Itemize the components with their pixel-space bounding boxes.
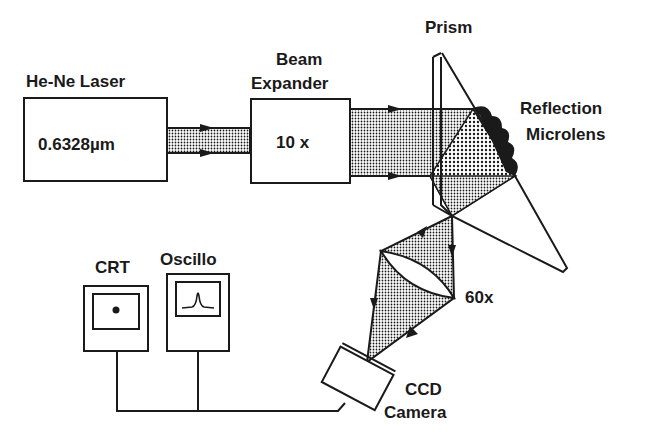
prism-label: Prism <box>425 18 472 37</box>
oscillo-label: Oscillo <box>160 250 217 269</box>
laser-wavelength: 0.6328µm <box>38 135 115 154</box>
laser: He-Ne Laser 0.6328µm <box>24 72 167 181</box>
beam-expander: Beam Expander 10 x <box>251 50 350 183</box>
beam-expander-value: 10 x <box>276 133 310 152</box>
microlens-label-1: Reflection <box>520 99 602 118</box>
spot-icon <box>113 307 120 314</box>
laser-beam <box>167 124 250 157</box>
beam-expander-label-2: Expander <box>251 74 329 93</box>
beam-expander-label-1: Beam <box>276 50 322 69</box>
ccd-label-1: CCD <box>405 380 442 399</box>
ccd-camera: CCD Camera <box>322 343 447 422</box>
objective-lens: 60x <box>367 216 494 362</box>
ccd-label-2: Camera <box>384 403 447 422</box>
objective-label: 60x <box>465 288 494 307</box>
microlens-label-2: Microlens <box>526 125 605 144</box>
crt-monitor: CRT <box>84 258 148 351</box>
crt-label: CRT <box>95 258 131 277</box>
laser-label: He-Ne Laser <box>26 72 126 91</box>
oscilloscope: Oscillo <box>160 250 229 351</box>
optical-setup-diagram: He-Ne Laser 0.6328µm Beam Expander 10 x … <box>0 0 646 438</box>
signal-cables <box>117 351 345 411</box>
